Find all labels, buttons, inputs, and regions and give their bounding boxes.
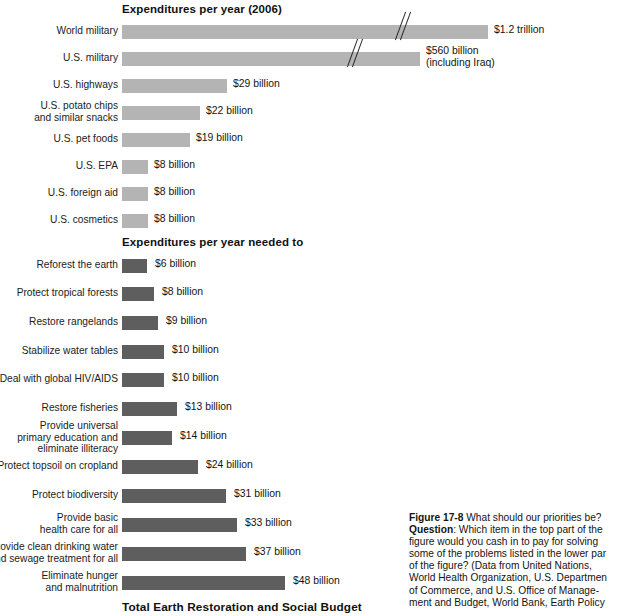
bar-label: U.S. military	[0, 52, 118, 64]
bar	[122, 160, 148, 174]
caption-question-label: Question	[409, 524, 453, 535]
bar-value-label: $19 billion	[196, 132, 243, 144]
bar	[122, 25, 488, 39]
caption-line-8: ment and Budget, World Bank, Earth Polic…	[409, 597, 625, 609]
caption-line-5: of the figure? (Data from United Nations…	[409, 560, 625, 572]
caption-line-6: World Health Organization, U.S. Departme…	[409, 572, 625, 584]
bar-value-label: $31 billion	[234, 488, 281, 500]
bar	[122, 214, 148, 228]
bar-label: U.S. pet foods	[0, 133, 118, 145]
bar-label: Protect topsoil on cropland	[0, 460, 118, 472]
bar	[122, 259, 147, 273]
bar-label: Deal with global HIV/AIDS	[0, 373, 118, 385]
bar-label: Reforest the earth	[0, 259, 118, 271]
bar-label: Provide clean drinking water and sewage …	[0, 541, 118, 564]
bar-value-label: $48 billion	[293, 575, 340, 587]
bar	[122, 287, 154, 301]
bar	[122, 402, 177, 416]
bar-value-label: $29 billion	[233, 78, 280, 90]
bar	[122, 431, 172, 445]
bar	[122, 316, 158, 330]
bar-value-label: $560 billion (including Iraq)	[426, 45, 495, 69]
bar-value-label: $14 billion	[180, 430, 227, 442]
bar-label: Provide universal primary education and …	[0, 420, 118, 455]
bar	[122, 133, 190, 147]
bar	[122, 460, 198, 474]
bar-value-label: $8 billion	[154, 159, 195, 171]
figure-17-8: Expenditures per year (2006) Expenditure…	[0, 0, 625, 616]
bar-label: U.S. foreign aid	[0, 187, 118, 199]
bar-value-label: $8 billion	[154, 186, 195, 198]
bar-value-label: $37 billion	[254, 546, 301, 558]
bar	[122, 106, 200, 120]
bar-value-label: $8 billion	[154, 213, 195, 225]
bar-label: Restore fisheries	[0, 402, 118, 414]
caption-line-1: Figure 17-8 What should our priorities b…	[409, 512, 625, 524]
caption-line-4: some of the problems listed in the lower…	[409, 548, 625, 560]
bar-label: U.S. potato chips and similar snacks	[0, 100, 118, 123]
bar-value-label: $22 billion	[206, 105, 253, 117]
bar-value-label: $6 billion	[155, 258, 196, 270]
bar-value-label: $10 billion	[172, 344, 219, 356]
bar-label: U.S. highways	[0, 79, 118, 91]
bar-value-label: $8 billion	[162, 286, 203, 298]
caption-figure-number: Figure 17-8	[409, 512, 463, 523]
bottom-section-title: Expenditures per year needed to	[122, 236, 303, 248]
figure-caption: Figure 17-8 What should our priorities b…	[409, 512, 625, 609]
bar-value-label: $24 billion	[206, 459, 253, 471]
bar	[122, 373, 164, 387]
bar-value-label: $9 billion	[166, 315, 207, 327]
caption-line-3: figure would you cash in to pay for solv…	[409, 536, 625, 548]
bar-label: Eliminate hunger and malnutrition	[0, 570, 118, 593]
bar-label: U.S. EPA	[0, 160, 118, 172]
bar-value-label: $13 billion	[185, 401, 232, 413]
caption-line-2: Question: Which item in the top part of …	[409, 524, 625, 536]
bar	[122, 518, 237, 532]
bar	[122, 547, 246, 561]
bar-label: Provide basic health care for all	[0, 512, 118, 535]
bar	[122, 345, 164, 359]
bar-label: World military	[0, 25, 118, 37]
total-budget-title: Total Earth Restoration and Social Budge…	[122, 600, 362, 614]
caption-title-text: What should our priorities be?	[463, 512, 601, 523]
bar	[122, 52, 420, 66]
bar-label: Protect biodiversity	[0, 489, 118, 501]
bar	[122, 489, 226, 503]
bar	[122, 79, 227, 93]
bar-value-label: $33 billion	[245, 517, 292, 529]
caption-question-text: : Which item in the top part of the	[453, 524, 603, 535]
bar-value-label: $10 billion	[172, 372, 219, 384]
bar-label: Protect tropical forests	[0, 287, 118, 299]
top-section-title: Expenditures per year (2006)	[122, 3, 282, 15]
bar	[122, 576, 285, 590]
bar-value-label: $1.2 trillion	[494, 24, 544, 36]
bar-label: Restore rangelands	[0, 316, 118, 328]
bar-label: Stabilize water tables	[0, 345, 118, 357]
bar	[122, 187, 148, 201]
bar-label: U.S. cosmetics	[0, 214, 118, 226]
caption-line-7: of Commerce, and U.S. Office of Manage-	[409, 585, 625, 597]
